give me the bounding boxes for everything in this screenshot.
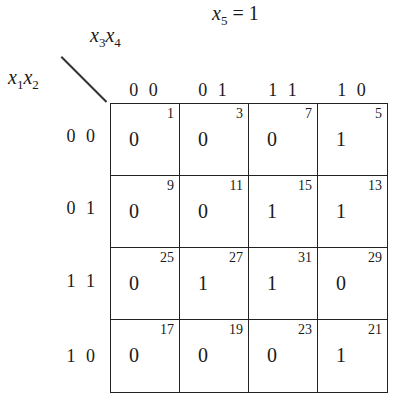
map-cell: 190 bbox=[180, 320, 249, 392]
minterm-index: 29 bbox=[368, 250, 382, 266]
row-var-a: x bbox=[8, 66, 17, 88]
column-header: 0 0 bbox=[110, 80, 180, 101]
cell-value: 0 bbox=[267, 344, 277, 367]
cell-value: 1 bbox=[267, 272, 277, 295]
map-cell: 311 bbox=[249, 248, 318, 320]
cell-value: 0 bbox=[129, 344, 139, 367]
minterm-index: 23 bbox=[298, 322, 312, 338]
map-cell: 211 bbox=[318, 320, 387, 392]
map-cell: 131 bbox=[318, 176, 387, 248]
col-var-a: x bbox=[90, 24, 99, 46]
cell-value: 0 bbox=[198, 200, 208, 223]
corner-diagonal-line bbox=[61, 56, 108, 103]
cell-value: 1 bbox=[198, 272, 208, 295]
column-header: 1 1 bbox=[249, 80, 319, 101]
minterm-index: 11 bbox=[230, 178, 243, 194]
map-cell: 10 bbox=[111, 104, 180, 176]
minterm-index: 3 bbox=[236, 106, 243, 122]
row-var-b: x bbox=[23, 66, 32, 88]
cell-value: 0 bbox=[129, 128, 139, 151]
cell-value: 0 bbox=[336, 272, 346, 295]
minterm-index: 9 bbox=[167, 178, 174, 194]
column-variables-label: x3x4 bbox=[90, 24, 121, 51]
map-cell: 30 bbox=[180, 104, 249, 176]
minterm-index: 25 bbox=[160, 250, 174, 266]
minterm-index: 31 bbox=[298, 250, 312, 266]
row-header: 0 0 bbox=[48, 126, 98, 147]
map-title: x5 = 1 bbox=[212, 2, 259, 29]
row-header: 1 0 bbox=[48, 346, 98, 367]
row-variables-label: x1x2 bbox=[8, 66, 39, 93]
minterm-index: 15 bbox=[298, 178, 312, 194]
col-var-b: x bbox=[105, 24, 114, 46]
cell-value: 1 bbox=[336, 128, 346, 151]
cell-value: 0 bbox=[129, 200, 139, 223]
title-value: = 1 bbox=[227, 2, 258, 24]
column-header: 0 1 bbox=[179, 80, 249, 101]
minterm-index: 19 bbox=[229, 322, 243, 338]
minterm-index: 1 bbox=[167, 106, 174, 122]
minterm-index: 27 bbox=[229, 250, 243, 266]
cell-value: 1 bbox=[267, 200, 277, 223]
cell-value: 1 bbox=[336, 344, 346, 367]
minterm-index: 7 bbox=[305, 106, 312, 122]
cell-value: 0 bbox=[129, 272, 139, 295]
map-cell: 151 bbox=[249, 176, 318, 248]
map-cell: 230 bbox=[249, 320, 318, 392]
map-cell: 250 bbox=[111, 248, 180, 320]
cell-value: 0 bbox=[198, 128, 208, 151]
map-cell: 110 bbox=[180, 176, 249, 248]
map-cell: 271 bbox=[180, 248, 249, 320]
map-cell: 290 bbox=[318, 248, 387, 320]
title-variable: x bbox=[212, 2, 221, 24]
cell-value: 0 bbox=[198, 344, 208, 367]
minterm-index: 21 bbox=[368, 322, 382, 338]
row-header: 1 1 bbox=[48, 271, 98, 292]
col-var-b-sub: 4 bbox=[114, 35, 121, 50]
map-cell: 51 bbox=[318, 104, 387, 176]
map-cell: 70 bbox=[249, 104, 318, 176]
map-cell: 170 bbox=[111, 320, 180, 392]
cell-value: 1 bbox=[336, 200, 346, 223]
minterm-index: 5 bbox=[375, 106, 382, 122]
row-var-b-sub: 2 bbox=[32, 77, 39, 92]
minterm-index: 17 bbox=[160, 322, 174, 338]
karnaugh-map-grid: 10 30 70 51 90 110 151 131 250 271 311 2… bbox=[110, 103, 388, 393]
minterm-index: 13 bbox=[368, 178, 382, 194]
cell-value: 0 bbox=[267, 128, 277, 151]
map-cell: 90 bbox=[111, 176, 180, 248]
row-header: 0 1 bbox=[48, 198, 98, 219]
column-header: 1 0 bbox=[318, 80, 388, 101]
